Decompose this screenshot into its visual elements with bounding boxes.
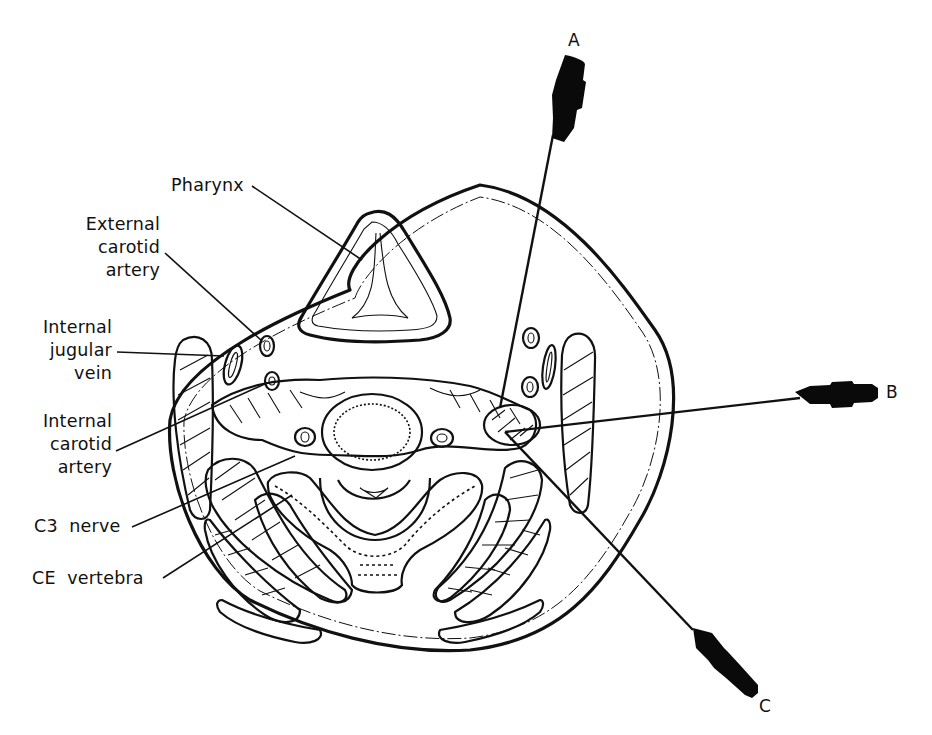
external-carotid-artery-left [260, 336, 274, 356]
pharynx [299, 211, 450, 341]
label-line: artery [14, 456, 112, 479]
needle-label-a: A [568, 30, 580, 50]
label-pharynx: Pharynx [160, 174, 255, 197]
label-internal-jugular-vein: Internal jugular vein [14, 316, 112, 385]
label-line: carotid [14, 433, 112, 456]
label-line: jugular [14, 339, 112, 362]
label-line: vein [14, 362, 112, 385]
neck-cross-section-diagram [0, 0, 932, 735]
neck-outline [170, 185, 674, 651]
internal-jugular-vein-left [220, 344, 246, 387]
label-line: External [52, 213, 160, 236]
vertebral-body [295, 394, 453, 470]
needle-label-b: B [886, 382, 898, 402]
diagram-canvas: Pharynx External carotid artery Internal… [0, 0, 932, 735]
label-line: Internal [14, 410, 112, 433]
label-c3-nerve: C3 nerve [34, 515, 120, 538]
leader-external-carotid [165, 253, 262, 341]
label-internal-carotid-artery: Internal carotid artery [14, 410, 112, 479]
posterior-muscles [205, 459, 550, 643]
leader-c3-nerve [132, 456, 295, 527]
needle-c [505, 432, 758, 698]
right-vessels [522, 328, 558, 397]
label-ce-vertebra: CE vertebra [32, 567, 144, 590]
label-line: Internal [14, 316, 112, 339]
needle-label-c: C [759, 696, 771, 716]
leader-internal-carotid [116, 383, 267, 451]
label-external-carotid-artery: External carotid artery [52, 213, 160, 282]
leader-internal-jugular [117, 352, 224, 356]
label-line: carotid [52, 236, 160, 259]
leader-pharynx [252, 186, 362, 260]
label-line: artery [52, 259, 160, 282]
